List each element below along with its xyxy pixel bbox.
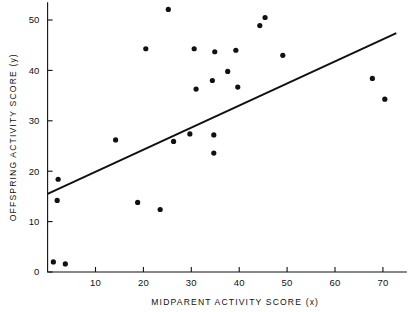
- x-axis-title: MIDPARENT ACTIVITY SCORE (x): [151, 297, 319, 307]
- plot-canvas: 10203040506070 01020304050 MIDPARENT ACT…: [0, 0, 412, 312]
- y-tick-label-50: 50: [29, 14, 40, 25]
- data-point-24: [382, 97, 387, 102]
- data-point-1: [63, 261, 68, 266]
- y-tick-label-40: 40: [29, 65, 40, 76]
- data-point-16: [212, 49, 217, 54]
- plot-background: [0, 0, 412, 312]
- x-tick-label-10: 10: [90, 277, 101, 288]
- x-tick-label-60: 60: [330, 277, 341, 288]
- x-tick-label-70: 70: [377, 277, 388, 288]
- y-tick-label-10: 10: [29, 216, 40, 227]
- y-tick-label-0: 0: [34, 266, 39, 277]
- data-point-10: [187, 131, 192, 136]
- y-axis-title: OFFSPRING ACTIVITY SCORE (y): [8, 53, 18, 221]
- x-tick-label-50: 50: [282, 277, 293, 288]
- data-point-23: [370, 76, 375, 81]
- data-point-17: [225, 69, 230, 74]
- data-point-13: [210, 78, 215, 83]
- data-point-2: [56, 177, 61, 182]
- data-point-19: [235, 84, 240, 89]
- data-point-4: [113, 137, 118, 142]
- x-tick-label-40: 40: [234, 277, 245, 288]
- data-point-18: [233, 48, 238, 53]
- data-point-7: [158, 207, 163, 212]
- data-point-6: [143, 46, 148, 51]
- data-point-11: [192, 46, 197, 51]
- data-point-12: [193, 86, 198, 91]
- scatter-plot-figure: 10203040506070 01020304050 MIDPARENT ACT…: [0, 0, 412, 312]
- data-point-21: [262, 15, 267, 20]
- x-tick-label-20: 20: [138, 277, 149, 288]
- y-tick-label-30: 30: [29, 115, 40, 126]
- x-tick-label-30: 30: [186, 277, 197, 288]
- data-point-14: [211, 132, 216, 137]
- data-point-20: [257, 23, 262, 28]
- data-point-15: [211, 150, 216, 155]
- data-point-9: [171, 139, 176, 144]
- data-point-22: [280, 53, 285, 58]
- data-point-5: [135, 200, 140, 205]
- data-point-8: [166, 7, 171, 12]
- data-point-0: [51, 259, 56, 264]
- y-tick-label-20: 20: [29, 166, 40, 177]
- data-point-3: [55, 198, 60, 203]
